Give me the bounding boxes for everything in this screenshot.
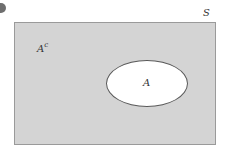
set-a-label: A: [143, 77, 150, 88]
universe-label: S: [203, 7, 210, 18]
complement-label: Ac: [37, 42, 48, 54]
complement-superscript: c: [44, 41, 48, 49]
bullet-dot-icon: [0, 3, 6, 13]
